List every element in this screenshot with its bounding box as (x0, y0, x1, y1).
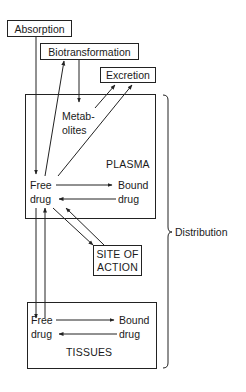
distribution-brace (163, 95, 172, 368)
excretion-label: Excretion (101, 69, 155, 81)
tissues-bound-drug-line2: drug (119, 328, 140, 340)
biotransformation-label: Biotransformation (41, 46, 138, 58)
excretion-box: Excretion (100, 67, 156, 83)
site-of-action-box: SITE OF ACTION (93, 245, 142, 276)
site-of-action-line2: ACTION (94, 261, 141, 273)
plasma-free-drug-line2: drug (30, 193, 51, 205)
metabolites-label-line1: Metab- (62, 110, 95, 122)
absorption-box: Absorption (7, 20, 72, 37)
to-site-arrow (53, 208, 93, 245)
site-of-action-line1: SITE OF (94, 248, 141, 260)
plasma-free-drug-line1: Free (30, 179, 52, 191)
metabolite-excretion-arrow (95, 85, 115, 108)
plasma-bound-drug-line1: Bound (118, 179, 148, 191)
plasma-bound-drug-line2: drug (118, 193, 139, 205)
absorption-label: Absorption (8, 23, 71, 35)
from-site-arrow (66, 208, 104, 245)
tissues-free-drug-line2: drug (31, 328, 52, 340)
plasma-label: PLASMA (106, 158, 150, 170)
tissues-bound-drug-line1: Bound (119, 314, 149, 326)
distribution-label: Distribution (175, 226, 228, 238)
tissues-label: TISSUES (66, 346, 112, 358)
metabolites-label-line2: olites (62, 124, 87, 136)
biotransformation-box: Biotransformation (40, 43, 139, 60)
tissues-free-drug-line1: Free (31, 314, 53, 326)
